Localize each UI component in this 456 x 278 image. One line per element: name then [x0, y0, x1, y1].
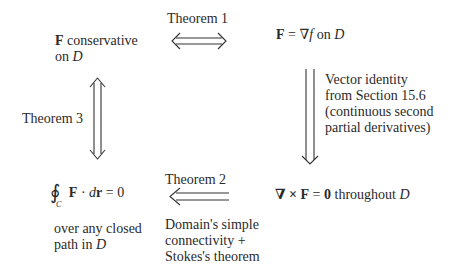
dot-operator: · [77, 185, 89, 200]
node-integral: ∮C F · dr = 0 [50, 182, 124, 207]
vector-f: F [301, 187, 310, 202]
theorem2-label: Theorem 2 [165, 172, 226, 188]
on-text: on [313, 27, 334, 42]
theorem1-label: Theorem 1 [167, 11, 228, 27]
desc-line-2: path in [54, 237, 96, 252]
theorem3-double-arrow-icon [90, 78, 105, 159]
equals-zero: = 0 [102, 185, 124, 200]
on-text: on [55, 49, 73, 64]
nabla-cross: ∇ × [275, 187, 301, 202]
vi-line-4: partial derivatives) [325, 120, 430, 135]
integral-description: over any closed path in D [54, 221, 142, 253]
theorem2-left-arrow-icon [170, 188, 229, 205]
theorem3-label: Theorem 3 [22, 111, 83, 127]
node-curl: ∇ × F = 0 throughout D [275, 187, 410, 203]
domain-var: D [399, 187, 409, 202]
t2-line-1: Domain's simple [165, 217, 259, 232]
curve-c: C [56, 200, 61, 209]
vector-f: F [276, 27, 285, 42]
vi-line-2: from Section 15.6 [325, 88, 426, 103]
t2-line-3: Stokes's theorem [165, 249, 260, 264]
conservative-text: conservative [64, 33, 138, 48]
vi-line-3: (continuous second [325, 104, 433, 119]
throughout-text: throughout [331, 187, 399, 202]
vector-identity-label: Vector identity from Section 15.6 (conti… [325, 72, 433, 136]
domain-var: D [96, 237, 106, 252]
theorem2-description: Domain's simple connectivity + Stokes's … [165, 217, 260, 265]
desc-line-1: over any closed [54, 221, 142, 236]
vector-identity-down-arrow-icon [302, 69, 318, 164]
zero-vector: 0 [324, 187, 331, 202]
equals: = [309, 187, 324, 202]
domain-var: D [73, 49, 83, 64]
domain-var: D [334, 27, 344, 42]
theorem1-double-arrow-icon [172, 33, 226, 49]
equals-nabla: = ∇ [285, 27, 310, 42]
vi-line-1: Vector identity [325, 72, 408, 87]
node-gradient: F = ∇f on D [276, 27, 344, 43]
node-conservative: F conservative on D [55, 33, 138, 65]
vector-f: F [55, 33, 64, 48]
t2-line-2: connectivity + [165, 233, 246, 248]
